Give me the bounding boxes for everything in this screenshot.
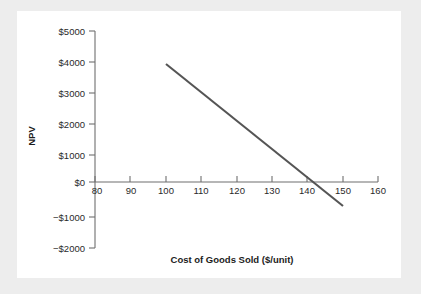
x-tick-label: 120: [229, 185, 245, 196]
y-tick-label: $5000: [59, 26, 85, 37]
x-tick-label: 100: [158, 185, 174, 196]
x-tick-label: 80: [92, 185, 103, 196]
y-tick-label: −$1000: [53, 212, 85, 223]
y-tick-marks: [89, 31, 95, 248]
x-tick-label: 130: [264, 185, 280, 196]
y-axis-title: NPV: [26, 126, 37, 146]
x-axis-title: Cost of Goods Sold ($/unit): [171, 254, 294, 265]
x-tick-labels: 80 90 100 110 120 130 140 150 160: [92, 185, 386, 196]
y-tick-label: $4000: [59, 57, 85, 68]
x-tick-label: 150: [335, 185, 351, 196]
y-tick-label: $1000: [59, 150, 85, 161]
x-tick-label: 90: [126, 185, 137, 196]
x-tick-marks: [95, 176, 378, 182]
npv-sensitivity-chart: $5000 $4000 $3000 $2000 $1000 $0 −$1000 …: [0, 0, 421, 294]
x-tick-label: 140: [299, 185, 315, 196]
y-tick-label: $3000: [59, 88, 85, 99]
y-tick-label: $2000: [59, 119, 85, 130]
x-tick-label: 160: [370, 185, 386, 196]
x-tick-label: 110: [193, 185, 208, 196]
y-tick-labels: $5000 $4000 $3000 $2000 $1000 $0 −$1000 …: [53, 26, 85, 254]
y-tick-label: −$2000: [53, 243, 85, 254]
y-tick-label: $0: [74, 177, 85, 188]
